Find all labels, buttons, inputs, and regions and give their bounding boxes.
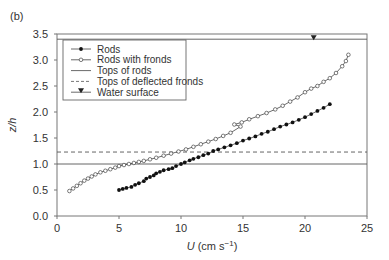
filled-dot-marker [133,183,137,187]
x-tick-label: 5 [116,222,122,234]
filled-dot-marker [158,170,162,174]
open-circle-marker [344,59,348,63]
filled-dot-marker [322,106,326,110]
filled-dot-marker [117,188,121,192]
legend-filled-dot-icon [79,47,83,51]
filled-dot-marker [144,177,148,181]
open-circle-marker [281,104,285,108]
legend: RodsRods with frondsTops of rodsTops of … [63,40,203,100]
filled-dot-marker [303,115,307,119]
open-circle-marker [99,171,103,175]
open-circle-marker [303,90,307,94]
y-tick-label: 2.5 [33,80,48,92]
y-tick-label: 0.0 [33,210,48,222]
open-circle-marker [154,156,158,160]
open-circle-marker [265,111,269,115]
open-circle-marker [117,164,121,168]
filled-dot-marker [229,143,233,147]
filled-dot-marker [260,132,264,136]
filled-dot-marker [179,162,183,166]
open-circle-marker [71,187,75,191]
filled-dot-marker [170,166,174,170]
y-tick-label: 1.5 [33,132,48,144]
open-circle-marker [90,175,94,179]
open-circle-marker [256,114,260,118]
filled-dot-marker [291,121,295,125]
y-tick-label: 3.0 [33,54,48,66]
filled-dot-marker [272,127,276,131]
open-circle-marker [221,134,225,138]
open-circle-marker [104,169,108,173]
open-circle-marker [68,189,72,193]
filled-dot-marker [148,175,152,179]
legend-label: Rods with fronds [97,54,171,65]
velocity-profile-chart: 0.00.51.01.52.02.53.03.50510152025 RodsR… [0,0,389,260]
filled-dot-marker [192,157,196,161]
open-circle-marker [199,142,203,146]
open-circle-marker [109,167,113,171]
open-circle-marker [316,84,320,88]
open-circle-marker [86,177,90,181]
filled-dot-marker [266,130,270,134]
filled-dot-marker [216,148,220,152]
filled-dot-marker [206,152,210,156]
filled-dot-marker [223,145,227,149]
open-circle-marker [82,179,86,183]
filled-dot-marker [316,109,320,113]
filled-dot-marker [285,123,289,127]
filled-dot-marker [154,171,158,175]
open-circle-marker [94,173,98,177]
filled-dot-marker [235,141,239,145]
open-circle-marker [184,148,188,152]
y-tick-label: 2.0 [33,106,48,118]
open-circle-marker [309,87,313,91]
filled-dot-marker [254,135,258,139]
filled-dot-marker [297,118,301,122]
open-circle-marker [206,140,210,144]
legend-label: Water surface [97,87,159,98]
filled-dot-marker [241,139,245,143]
open-circle-marker [239,125,243,129]
open-circle-marker [177,150,181,154]
open-circle-marker [322,80,326,84]
open-circle-marker [113,166,117,170]
y-tick-label: 0.5 [33,184,48,196]
open-circle-marker [233,123,237,127]
open-circle-marker [132,161,136,165]
open-circle-marker [192,145,196,149]
x-tick-label: 15 [237,222,249,234]
open-circle-marker [162,154,166,158]
open-circle-marker [142,159,146,163]
open-circle-marker [148,158,152,162]
y-tick-label: 1.0 [33,158,48,170]
open-circle-marker [79,181,83,185]
filled-dot-marker [137,181,141,185]
x-tick-label: 20 [299,222,311,234]
open-circle-marker [240,121,244,125]
open-circle-marker [169,152,173,156]
filled-dot-marker [130,185,134,189]
x-tick-label: 25 [361,222,373,234]
filled-dot-marker [125,186,129,190]
filled-dot-marker [247,137,251,141]
legend-label: Tops of rods [97,65,151,76]
open-circle-marker [214,137,218,141]
filled-dot-marker [328,102,332,106]
open-circle-marker [273,108,277,112]
filled-dot-marker [162,168,166,172]
open-circle-marker [296,96,300,100]
x-tick-label: 10 [175,222,187,234]
open-circle-marker [328,76,332,80]
open-circle-marker [247,117,251,121]
filled-dot-marker [188,158,192,162]
filled-dot-marker [309,112,313,116]
filled-dot-marker [174,164,178,168]
open-circle-marker [340,64,344,68]
open-circle-marker [334,71,338,75]
filled-dot-marker [201,153,205,157]
open-circle-marker [288,100,292,104]
open-circle-marker [122,163,126,167]
filled-dot-marker [121,187,125,191]
legend-open-circle-icon [79,58,83,62]
filled-dot-marker [167,167,171,171]
